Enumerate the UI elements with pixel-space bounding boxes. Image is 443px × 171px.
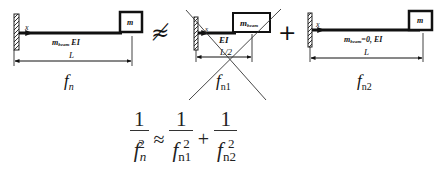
frequency-label-fn2: fn2 [357, 71, 372, 92]
plus-operator: + [278, 20, 296, 45]
numerator: 1 [172, 108, 191, 130]
dunkerley-equation: 1 fn2 ≈ 1 fn12 + 1 fn22 [128, 108, 239, 170]
fraction-fn2: 1 fn22 [214, 108, 237, 170]
denominator: fn2 [131, 131, 148, 170]
numerator: 1 [130, 108, 149, 130]
length-label: L/2 [219, 47, 233, 57]
mass-label: m [127, 18, 133, 27]
length-label: L [363, 47, 369, 57]
approx-symbol: ≈ [154, 128, 165, 151]
figure-full-system: x m mbeam EI L fn [14, 12, 142, 92]
fraction-fn: 1 fn2 [130, 108, 149, 170]
figure-massless-beam: x m mbeam=0, EI L fn2 [308, 11, 432, 92]
length-label: L [68, 50, 74, 60]
beam-property-label: mbeam EI [52, 38, 81, 47]
approx-not-equal-icon: ≉ [151, 20, 169, 45]
frequency-label-fn: fn [64, 71, 74, 92]
fixed-wall-icon [14, 14, 19, 50]
x-label: x [315, 20, 320, 29]
fixed-wall-icon [194, 17, 198, 50]
beam-property-label: mbeam=0, EI [344, 35, 383, 44]
fraction-fn1: 1 fn12 [169, 108, 192, 170]
frequency-label-fn1: fn1 [216, 71, 231, 92]
denominator: fn22 [214, 131, 237, 170]
x-label: x [24, 23, 29, 32]
numerator: 1 [217, 108, 236, 130]
fixed-wall-icon [308, 13, 312, 47]
figure-beam-only: x mbeam EI L/2 fn1 [186, 9, 281, 100]
plus-symbol: + [198, 128, 209, 151]
denominator: fn12 [169, 131, 192, 170]
mass-label: m [417, 16, 423, 25]
beam-property-label: EI [218, 35, 229, 45]
